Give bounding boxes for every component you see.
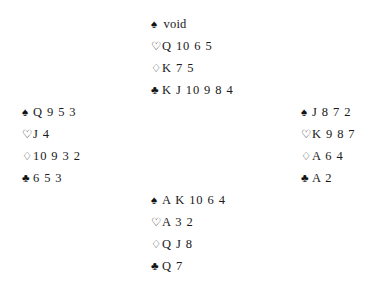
west-diamonds-ranks: 10 9 3 2 xyxy=(33,145,81,167)
spade-suit-symbol: ♠ xyxy=(301,101,312,123)
south-hearts-ranks: A 3 2 xyxy=(162,211,194,233)
west-clubs-row: ♣6 5 3 xyxy=(22,167,81,189)
west-hearts-ranks: J 4 xyxy=(33,123,50,145)
south-spades-ranks: A K 10 6 4 xyxy=(162,189,226,211)
west-spades-row: ♠Q 9 5 3 xyxy=(22,101,81,123)
spade-suit-symbol: ♠ xyxy=(151,189,162,211)
heart-suit-symbol: ♡ xyxy=(22,123,33,145)
diamond-suit-symbol: ♢ xyxy=(301,145,312,167)
diamond-suit-symbol: ♢ xyxy=(22,145,33,167)
north-spades-ranks: void xyxy=(162,13,187,35)
north-clubs-ranks: K J 10 9 8 4 xyxy=(162,79,234,101)
south-spades-row: ♠A K 10 6 4 xyxy=(151,189,226,211)
north-diamonds-row: ♢K 7 5 xyxy=(151,57,234,79)
south-diamonds-row: ♢Q J 8 xyxy=(151,233,226,255)
west-hand: ♠Q 9 5 3 ♡J 4 ♢10 9 3 2 ♣6 5 3 xyxy=(22,101,81,189)
diamond-suit-symbol: ♢ xyxy=(151,57,162,79)
east-diamonds-row: ♢A 6 4 xyxy=(301,145,355,167)
north-spades-row: ♠void xyxy=(151,13,234,35)
east-spades-row: ♠J 8 7 2 xyxy=(301,101,355,123)
west-clubs-ranks: 6 5 3 xyxy=(33,167,63,189)
east-hearts-ranks: K 9 8 7 xyxy=(312,123,355,145)
club-suit-symbol: ♣ xyxy=(22,167,33,189)
heart-suit-symbol: ♡ xyxy=(151,35,162,57)
club-suit-symbol: ♣ xyxy=(151,255,162,277)
east-spades-ranks: J 8 7 2 xyxy=(312,101,351,123)
north-diamonds-ranks: K 7 5 xyxy=(162,57,194,79)
south-hearts-row: ♡A 3 2 xyxy=(151,211,226,233)
diamond-suit-symbol: ♢ xyxy=(151,233,162,255)
south-diamonds-ranks: Q J 8 xyxy=(162,233,193,255)
east-diamonds-ranks: A 6 4 xyxy=(312,145,344,167)
east-clubs-ranks: A 2 xyxy=(312,167,332,189)
south-clubs-ranks: Q 7 xyxy=(162,255,183,277)
bridge-deal-diagram: ♠void ♡Q 10 6 5 ♢K 7 5 ♣K J 10 9 8 4 ♠Q … xyxy=(0,0,379,289)
club-suit-symbol: ♣ xyxy=(301,167,312,189)
spade-suit-symbol: ♠ xyxy=(151,13,162,35)
south-hand: ♠A K 10 6 4 ♡A 3 2 ♢Q J 8 ♣Q 7 xyxy=(151,189,226,277)
east-hand: ♠J 8 7 2 ♡K 9 8 7 ♢A 6 4 ♣A 2 xyxy=(301,101,355,189)
north-hearts-row: ♡Q 10 6 5 xyxy=(151,35,234,57)
heart-suit-symbol: ♡ xyxy=(301,123,312,145)
spade-suit-symbol: ♠ xyxy=(22,101,33,123)
west-diamonds-row: ♢10 9 3 2 xyxy=(22,145,81,167)
south-clubs-row: ♣Q 7 xyxy=(151,255,226,277)
club-suit-symbol: ♣ xyxy=(151,79,162,101)
east-hearts-row: ♡K 9 8 7 xyxy=(301,123,355,145)
north-hearts-ranks: Q 10 6 5 xyxy=(162,35,213,57)
east-clubs-row: ♣A 2 xyxy=(301,167,355,189)
north-clubs-row: ♣K J 10 9 8 4 xyxy=(151,79,234,101)
west-hearts-row: ♡J 4 xyxy=(22,123,81,145)
north-hand: ♠void ♡Q 10 6 5 ♢K 7 5 ♣K J 10 9 8 4 xyxy=(151,13,234,101)
west-spades-ranks: Q 9 5 3 xyxy=(33,101,76,123)
heart-suit-symbol: ♡ xyxy=(151,211,162,233)
